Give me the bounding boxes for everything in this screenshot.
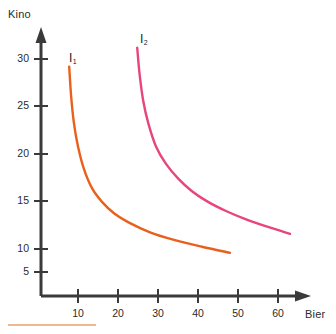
chart-container: Kino Bier 30 25 20 15 10 5 10 20 30 40 5… [0,0,336,334]
chart-plot-area [0,0,336,334]
x-tick-label-60: 60 [266,307,290,319]
x-axis-title: Bier [305,308,325,320]
y-tick-label-30: 30 [7,52,29,64]
x-tick-label-50: 50 [226,307,250,319]
y-tick-label-5: 5 [7,265,29,277]
y-tick-label-25: 25 [7,99,29,111]
y-tick-label-10: 10 [7,242,29,254]
x-tick-label-40: 40 [186,307,210,319]
x-tick-label-30: 30 [146,307,170,319]
y-tick-label-15: 15 [7,194,29,206]
curve-label-i2-text: I [140,32,143,46]
curve-label-i1-sub: 1 [73,58,77,65]
series-group [69,48,290,253]
y-tick-label-20: 20 [7,147,29,159]
curve-label-i2-sub: 2 [144,39,148,46]
curve-label-i2: I2 [140,33,147,45]
x-axis [41,291,311,302]
y-axis [36,27,47,296]
y-axis-title: Kino [8,8,31,20]
curve-i1 [69,67,230,253]
x-tick-label-10: 10 [66,307,90,319]
curve-label-i1: I1 [69,52,76,64]
x-tick-label-20: 20 [106,307,130,319]
curve-i2 [137,48,290,234]
curve-label-i1-text: I [69,51,72,65]
